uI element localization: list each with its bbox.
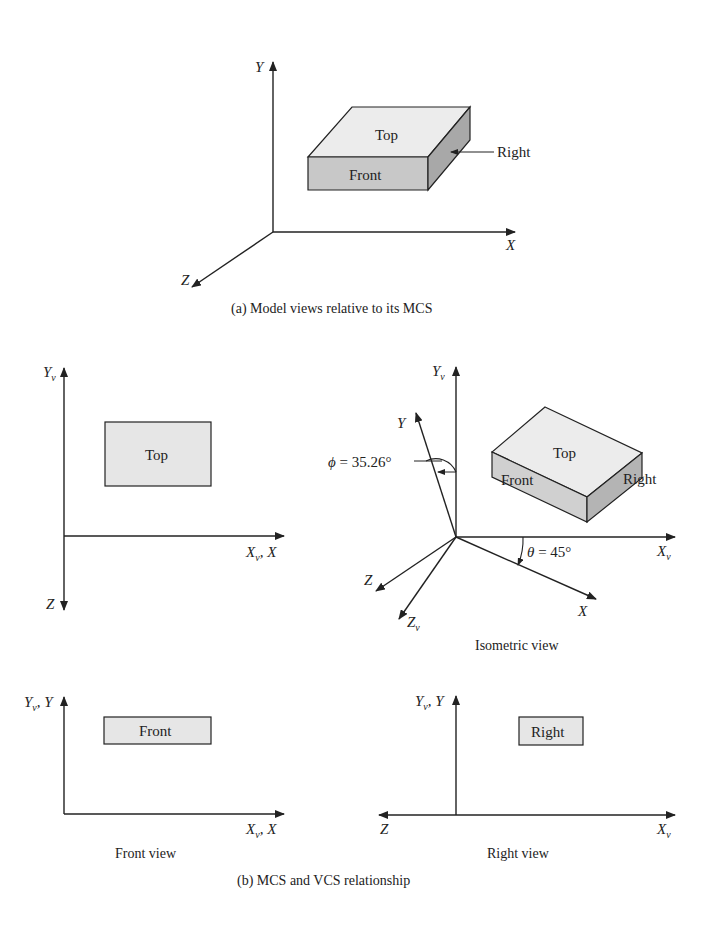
z-axis	[192, 232, 273, 287]
right-view: Right Yv, Y Xv Z Right view	[379, 693, 675, 861]
right-face-label: Right	[531, 724, 565, 740]
front-view-caption: Front view	[115, 846, 177, 861]
yv-y-axis-label: Yv, Y	[24, 694, 54, 713]
top-view: Top Yv Xv, X Z	[43, 364, 284, 612]
yv-axis-label: Yv	[43, 364, 56, 383]
theta-angle-arc	[518, 537, 523, 565]
z-axis-label: Z	[181, 272, 190, 288]
z-axis-label: Z	[46, 596, 55, 612]
caption-a-prefix: (a)	[231, 301, 247, 317]
face-label-right: Right	[497, 144, 531, 160]
right-view-caption: Right view	[487, 846, 550, 861]
z-axis	[376, 537, 456, 591]
y-axis	[416, 413, 456, 537]
iso-face-label-top: Top	[553, 445, 576, 461]
part-a-model-views: Y X Z Top Front Right (a) Model views re…	[181, 59, 531, 317]
caption-a-text: Model views relative to its MCS	[247, 301, 433, 316]
phi-angle-label: ϕ = 35.26°	[328, 454, 391, 470]
caption-b-prefix: (b)	[237, 873, 254, 889]
mcs-vcs-diagram: Y X Z Top Front Right (a) Model views re…	[0, 0, 714, 931]
xv-x-axis-label: Xv, X	[245, 544, 277, 563]
front-face-label: Front	[139, 723, 172, 739]
front-view: Front Yv, Y Xv, X Front view	[24, 694, 284, 861]
x-axis-label: X	[505, 237, 516, 253]
iso-face-label-front: Front	[501, 472, 534, 488]
zv-axis-label: Zv	[407, 614, 420, 633]
face-label-top: Top	[375, 127, 398, 143]
isometric-view-caption: Isometric view	[475, 638, 559, 653]
x-axis	[456, 537, 596, 599]
z-axis-label: Z	[364, 572, 373, 588]
z-axis-label: Z	[380, 821, 389, 837]
iso-face-label-right: Right	[623, 471, 657, 487]
caption-a: (a) Model views relative to its MCS	[231, 301, 432, 317]
xv-axis-label: Xv	[656, 543, 671, 562]
yv-axis-label: Yv	[432, 363, 445, 382]
xv-axis-label: Xv	[656, 821, 671, 840]
top-face-label: Top	[145, 447, 168, 463]
isometric-view: ϕ = 35.26° θ = 45° Top Front Right Yv Y …	[328, 363, 675, 653]
yv-y-axis-label: Yv, Y	[415, 693, 445, 712]
caption-b: (b) MCS and VCS relationship	[237, 873, 410, 889]
face-label-front: Front	[349, 167, 382, 183]
y-axis-label: Y	[255, 59, 265, 75]
xv-x-axis-label: Xv, X	[245, 821, 277, 840]
theta-angle-label: θ = 45°	[527, 544, 571, 560]
x-axis-label: X	[577, 603, 588, 619]
zv-axis	[399, 537, 456, 619]
y-axis-label: Y	[397, 415, 407, 431]
caption-b-text: MCS and VCS relationship	[253, 873, 410, 888]
